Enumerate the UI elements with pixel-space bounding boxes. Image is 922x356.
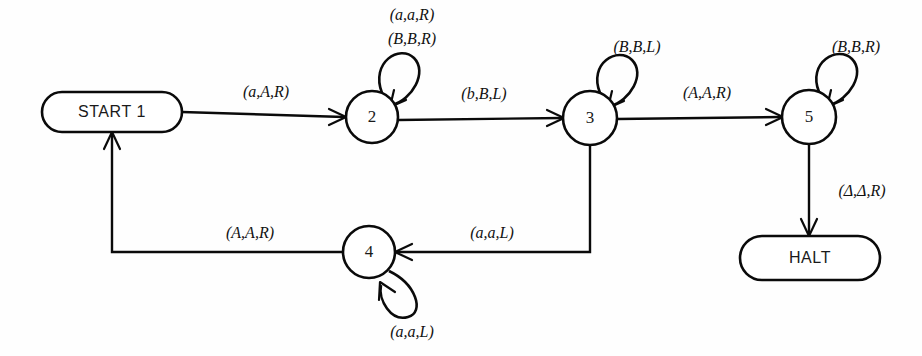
state-machine-diagram: (a,A,R) (b,B,L) (A,A,R) (Δ,Δ,R) (0, 0, 922, 356)
node-state-3[interactable]: 3 (563, 91, 617, 145)
self-loop-label-state-2-line-1: (a,a,R) (390, 6, 434, 24)
edge-line (398, 118, 562, 120)
node-state-2[interactable]: 2 (346, 91, 398, 143)
edge-3-to-5: (A,A,R) (617, 84, 783, 125)
node-state-4[interactable]: 4 (343, 226, 395, 278)
edge-label-3-to-4: (a,a,L) (470, 224, 514, 242)
self-loop-label-state-4: (a,a,L) (390, 323, 434, 341)
node-state-5-label: 5 (805, 107, 814, 126)
node-state-2-label: 2 (368, 107, 377, 126)
edges-layer: (a,A,R) (b,B,L) (A,A,R) (Δ,Δ,R) (104, 83, 886, 260)
edge-label-5-to-halt: (Δ,Δ,R) (838, 182, 885, 200)
node-state-3-label: 3 (586, 108, 595, 127)
node-start1[interactable]: START 1 (42, 92, 182, 132)
edge-label-4-to-start1: (A,A,R) (226, 224, 274, 242)
diagram-canvas: (a,A,R) (b,B,L) (A,A,R) (Δ,Δ,R) (0, 0, 922, 356)
edge-4-to-start1: (A,A,R) (104, 132, 343, 252)
edge-label-2-to-3: (b,B,L) (461, 85, 506, 103)
edge-label-3-to-5: (A,A,R) (683, 84, 731, 102)
node-state-5[interactable]: 5 (782, 90, 836, 144)
edge-label-start1-to-2: (a,A,R) (243, 83, 289, 101)
edge-2-to-3: (b,B,L) (398, 85, 564, 126)
self-loop-label-state-3: (B,B,L) (613, 38, 660, 56)
edge-start1-to-2: (a,A,R) (182, 83, 346, 125)
edge-5-to-halt: (Δ,Δ,R) (801, 144, 886, 236)
edge-3-to-4: (a,a,L) (395, 145, 590, 260)
node-state-4-label: 4 (365, 242, 374, 261)
self-loop-path (381, 271, 417, 318)
self-loop-state-4: (a,a,L) (379, 271, 434, 341)
node-start1-label: START 1 (78, 103, 146, 120)
node-halt-label: HALT (789, 249, 831, 266)
edge-line (182, 112, 344, 117)
self-loop-label-state-2-line-2: (B,B,R) (388, 30, 436, 48)
self-loops-layer: (a,a,R) (B,B,R) (B,B,L) (B,B,R) (a,a,L) (379, 6, 880, 341)
edge-line (617, 117, 781, 119)
node-halt[interactable]: HALT (740, 236, 880, 280)
self-loop-state-2: (a,a,R) (B,B,R) (379, 6, 436, 107)
self-loop-label-state-5: (B,B,R) (832, 38, 880, 56)
